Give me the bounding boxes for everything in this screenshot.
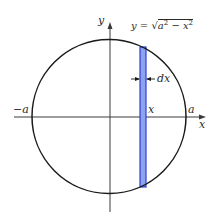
y-axis-arrow-icon [108, 22, 113, 29]
circle-strip-diagram: y x −a a x dx y = √a2 − x2 [0, 0, 213, 222]
radicand-minus-x: − x [168, 20, 188, 31]
dx-right-arrow-icon [146, 77, 151, 81]
integration-strip [140, 47, 146, 187]
exponent-x: 2 [189, 19, 193, 27]
dx-label: dx [157, 73, 170, 84]
diagram-canvas [0, 0, 213, 222]
pos-a-label: a [188, 104, 195, 115]
equation-label: y = √a2 − x2 [131, 20, 193, 31]
dx-left-arrow-icon [135, 77, 140, 81]
radicand: a2 − x2 [158, 19, 193, 31]
y-axis-label: y [98, 15, 104, 26]
x-position-label: x [148, 104, 154, 115]
x-axis-label: x [199, 119, 205, 130]
neg-a-label: −a [13, 104, 29, 115]
equation-lhs: y = [131, 20, 151, 31]
